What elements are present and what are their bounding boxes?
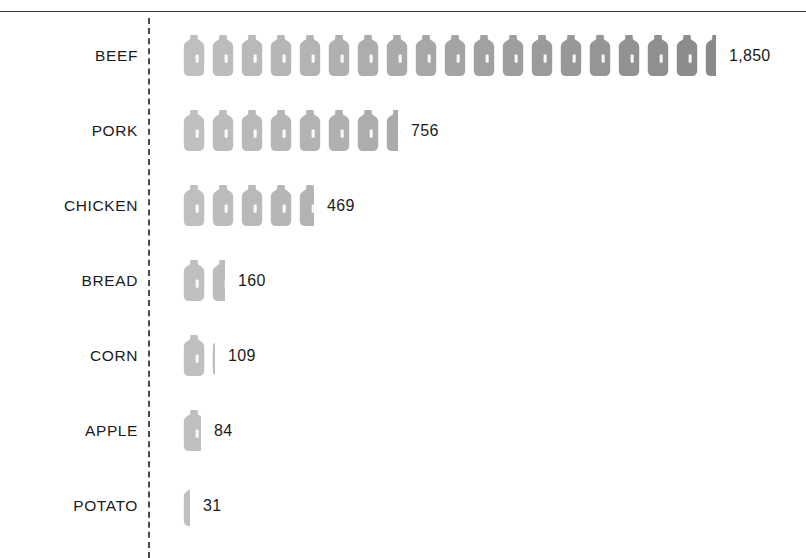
water-jug-icon-partial — [183, 410, 201, 451]
water-jug-icon — [212, 110, 234, 151]
water-jug-icon-full — [270, 35, 292, 76]
water-jug-icon-full — [270, 185, 292, 226]
chart-row: PORK756 — [0, 93, 806, 168]
pictogram-chart: BEEF1,850PORK756CHICKEN469BREAD160CORN10… — [0, 0, 806, 558]
water-jug-icon — [183, 260, 205, 301]
water-jug-icon — [183, 335, 205, 376]
water-jug-icon-full — [183, 185, 205, 226]
water-jug-icon-full — [299, 110, 321, 151]
water-jug-icon-full — [212, 110, 234, 151]
pictogram-icon-group — [183, 468, 197, 543]
chart-row: POTATO31 — [0, 468, 806, 543]
water-jug-icon — [415, 35, 437, 76]
value-label: 160 — [238, 243, 266, 318]
chart-row: BEEF1,850 — [0, 18, 806, 93]
pictogram-icon-group — [183, 393, 208, 468]
water-jug-icon-full — [357, 35, 379, 76]
water-jug-icon-full — [212, 185, 234, 226]
value-label: 1,850 — [729, 18, 771, 93]
chart-row: BREAD160 — [0, 243, 806, 318]
water-jug-icon — [589, 35, 611, 76]
chart-rows-container: BEEF1,850PORK756CHICKEN469BREAD160CORN10… — [0, 18, 806, 543]
water-jug-icon — [473, 35, 495, 76]
value-label: 31 — [203, 468, 221, 543]
water-jug-icon — [444, 35, 466, 76]
category-label: CHICKEN — [0, 168, 138, 243]
water-jug-icon-full — [415, 35, 437, 76]
water-jug-icon — [183, 185, 205, 226]
water-jug-icon — [328, 35, 350, 76]
water-jug-icon-full — [676, 35, 698, 76]
water-jug-icon — [560, 35, 582, 76]
water-jug-icon — [183, 485, 190, 526]
category-label: APPLE — [0, 393, 138, 468]
water-jug-icon-full — [241, 185, 263, 226]
water-jug-icon-full — [270, 110, 292, 151]
water-jug-icon-partial — [212, 335, 215, 376]
value-label: 84 — [214, 393, 232, 468]
water-jug-icon — [386, 110, 398, 151]
water-jug-icon — [386, 35, 408, 76]
water-jug-icon-full — [212, 35, 234, 76]
water-jug-icon-partial — [299, 185, 314, 226]
category-label: POTATO — [0, 468, 138, 543]
water-jug-icon-full — [647, 35, 669, 76]
water-jug-icon-full — [560, 35, 582, 76]
water-jug-icon-full — [328, 110, 350, 151]
water-jug-icon-full — [183, 260, 205, 301]
value-label: 109 — [228, 318, 256, 393]
water-jug-icon — [328, 110, 350, 151]
category-label: BREAD — [0, 243, 138, 318]
water-jug-icon-full — [473, 35, 495, 76]
water-jug-icon — [183, 35, 205, 76]
water-jug-icon-partial — [183, 485, 190, 526]
water-jug-icon — [502, 35, 524, 76]
category-label: CORN — [0, 318, 138, 393]
pictogram-icon-group — [183, 243, 232, 318]
pictogram-icon-group — [183, 93, 405, 168]
water-jug-icon — [212, 35, 234, 76]
water-jug-icon — [676, 35, 698, 76]
water-jug-icon — [647, 35, 669, 76]
water-jug-icon-full — [357, 110, 379, 151]
water-jug-icon-partial — [212, 260, 225, 301]
water-jug-icon — [357, 110, 379, 151]
water-jug-icon-full — [241, 110, 263, 151]
water-jug-icon — [241, 185, 263, 226]
water-jug-icon-full — [183, 335, 205, 376]
water-jug-icon-full — [241, 35, 263, 76]
value-label: 756 — [411, 93, 439, 168]
water-jug-icon — [241, 35, 263, 76]
water-jug-icon-full — [299, 35, 321, 76]
water-jug-icon-full — [328, 35, 350, 76]
water-jug-icon-full — [444, 35, 466, 76]
water-jug-icon — [357, 35, 379, 76]
water-jug-icon — [270, 110, 292, 151]
water-jug-icon — [212, 260, 225, 301]
water-jug-icon — [270, 35, 292, 76]
top-divider-rule — [0, 11, 806, 12]
water-jug-icon — [299, 185, 314, 226]
water-jug-icon-partial — [386, 110, 398, 151]
water-jug-icon — [299, 110, 321, 151]
chart-row: APPLE84 — [0, 393, 806, 468]
water-jug-icon — [705, 35, 716, 76]
water-jug-icon-full — [589, 35, 611, 76]
value-label: 469 — [327, 168, 355, 243]
water-jug-icon — [618, 35, 640, 76]
water-jug-icon — [270, 185, 292, 226]
category-label: PORK — [0, 93, 138, 168]
water-jug-icon-full — [618, 35, 640, 76]
water-jug-icon-full — [386, 35, 408, 76]
water-jug-icon-full — [183, 110, 205, 151]
water-jug-icon — [183, 410, 201, 451]
pictogram-icon-group — [183, 318, 222, 393]
pictogram-icon-group — [183, 18, 723, 93]
water-jug-icon-full — [531, 35, 553, 76]
water-jug-icon — [212, 335, 215, 376]
chart-row: CHICKEN469 — [0, 168, 806, 243]
water-jug-icon — [212, 185, 234, 226]
water-jug-icon — [241, 110, 263, 151]
chart-row: CORN109 — [0, 318, 806, 393]
water-jug-icon — [531, 35, 553, 76]
